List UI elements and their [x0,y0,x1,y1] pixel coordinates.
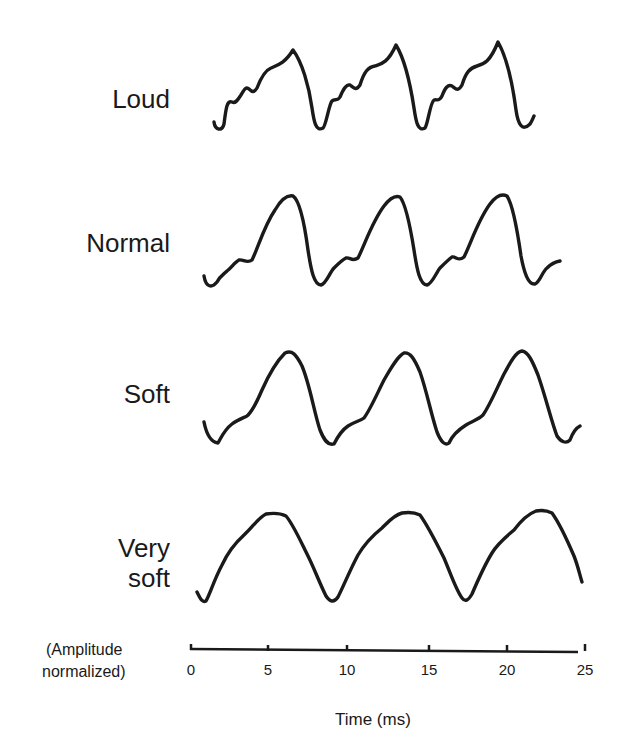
waveform-soft [204,351,580,444]
waveform-plot [0,0,626,754]
waveform-normal [204,195,560,286]
waveform-loud [214,42,534,129]
waveform-very-soft [197,511,582,602]
time-axis [190,649,578,652]
